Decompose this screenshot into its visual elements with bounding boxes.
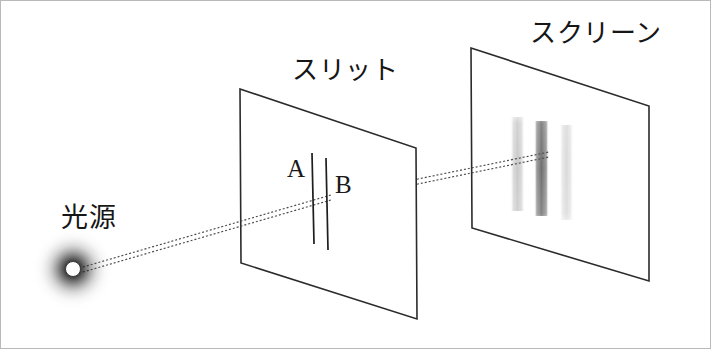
slit-a-letter: A: [287, 156, 305, 181]
screen-label: スクリーン: [530, 20, 662, 46]
slit-b-letter: B: [335, 172, 352, 197]
slit-panel: [240, 89, 417, 319]
fringe-center: [534, 121, 549, 216]
light-source-group: [31, 227, 115, 311]
screen-panel-group: [471, 48, 649, 281]
diagram-canvas: [1, 1, 711, 349]
slit-panel-group: [240, 89, 417, 319]
fringe-right: [559, 125, 574, 220]
slit-label: スリット: [292, 57, 398, 83]
light-source-label: 光源: [61, 204, 116, 231]
double-slit-figure: 光源 スリット スクリーン A B: [0, 0, 711, 349]
light-source-dot: [66, 262, 81, 277]
interference-fringes: [510, 117, 574, 220]
